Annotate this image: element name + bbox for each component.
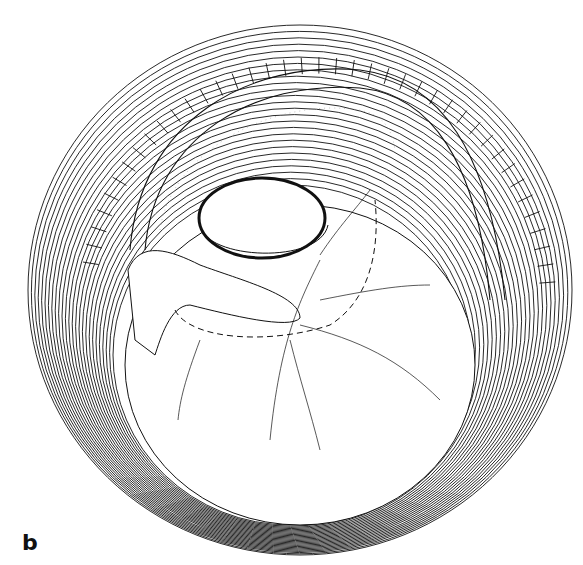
- inner-disc: [125, 205, 475, 525]
- annulus-drawing: [0, 0, 583, 565]
- panel-label: b: [22, 530, 38, 555]
- figure-panel: b: [0, 0, 583, 565]
